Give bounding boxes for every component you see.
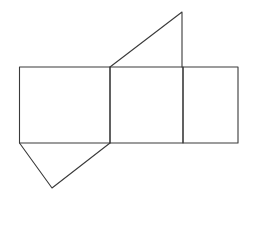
left-rectangle-face bbox=[20, 67, 111, 143]
bottom-triangle-face bbox=[20, 143, 111, 188]
right-rectangle-face bbox=[183, 67, 238, 143]
middle-rectangle-face bbox=[110, 67, 183, 143]
top-triangle-face bbox=[110, 12, 182, 67]
prism-net-diagram bbox=[0, 0, 253, 236]
